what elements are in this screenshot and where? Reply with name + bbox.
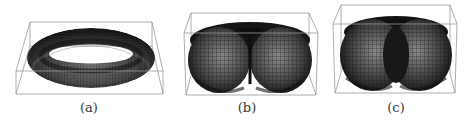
panel-b: (b) — [172, 0, 324, 122]
caption-b: (b) — [227, 100, 267, 115]
torus-surface — [188, 27, 312, 93]
caption-a: (a) — [69, 100, 109, 115]
panel-c: (c) — [324, 0, 472, 122]
torus-surface — [340, 18, 452, 92]
panel-a: (a) — [0, 0, 172, 122]
caption-c: (c) — [376, 100, 416, 115]
